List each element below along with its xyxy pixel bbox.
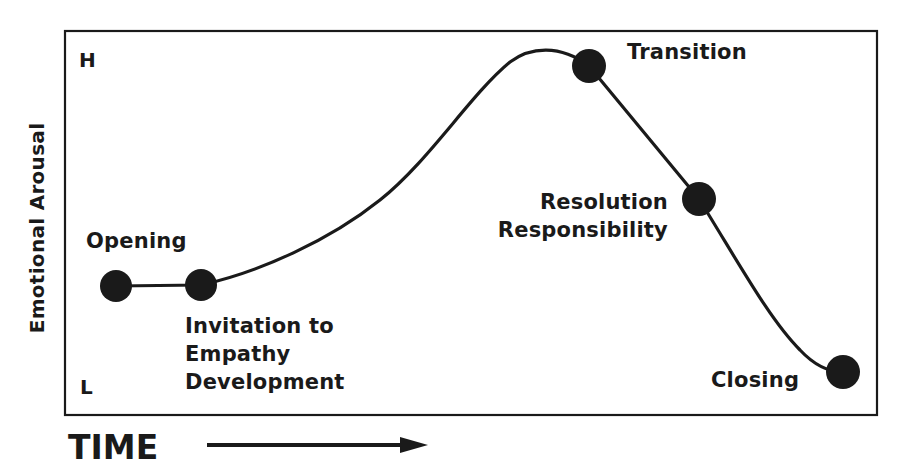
- node-transition: [572, 49, 606, 83]
- y-axis-title: Emotional Arousal: [27, 123, 47, 334]
- x-axis-title: TIME: [68, 431, 158, 464]
- stage-label-line: Closing: [711, 368, 799, 392]
- stage-label-transition: Transition: [627, 42, 747, 63]
- stage-label-invitation: Invitation to Empathy Development: [185, 312, 345, 396]
- stage-label-line: Development: [185, 368, 345, 396]
- node-opening: [100, 270, 132, 302]
- node-invitation: [185, 269, 217, 301]
- stage-label-line: Responsibility: [498, 216, 668, 244]
- stage-label-closing: Closing: [711, 370, 799, 391]
- node-closing: [826, 355, 860, 389]
- right-arrow-icon: [207, 437, 428, 453]
- stage-label-line: Invitation to: [185, 312, 345, 340]
- y-low-label: L: [80, 377, 93, 397]
- y-high-label: H: [79, 50, 96, 70]
- stage-label-resolution: Resolution Responsibility: [498, 188, 668, 244]
- stage-label-line: Empathy: [185, 340, 345, 368]
- stage-label-line: Transition: [627, 40, 747, 64]
- stage-label-opening: Opening: [86, 231, 187, 252]
- stage-label-line: Opening: [86, 229, 187, 253]
- node-resolution: [682, 182, 716, 216]
- stage-label-line: Resolution: [498, 188, 668, 216]
